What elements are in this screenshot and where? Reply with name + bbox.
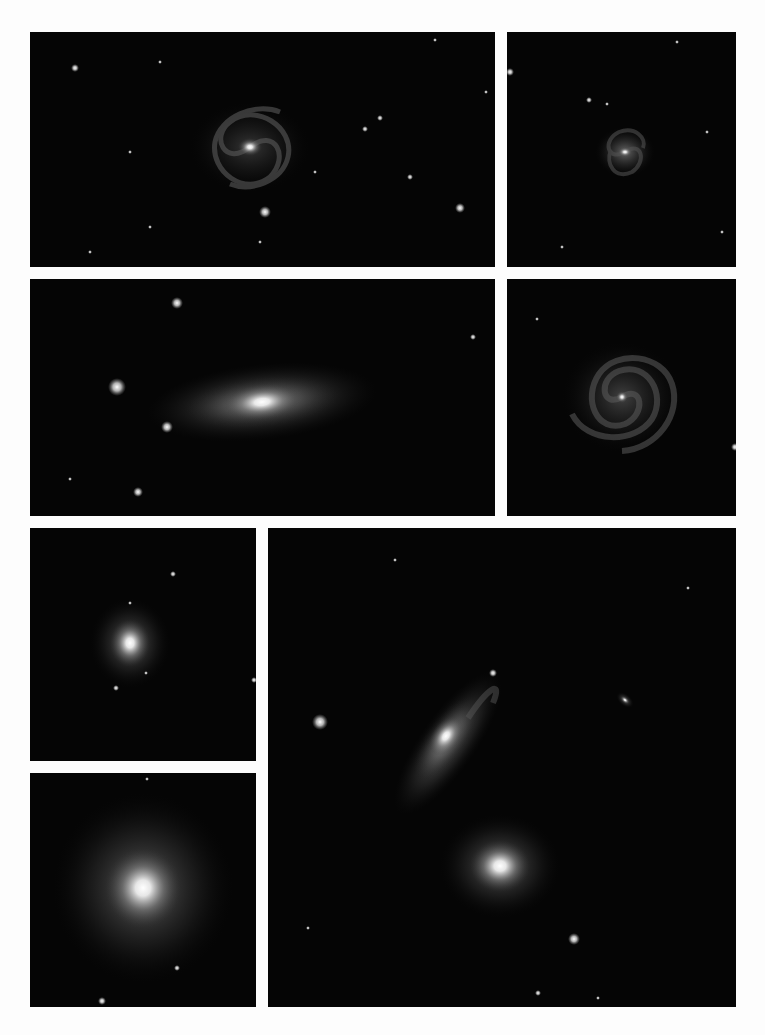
galaxy-panel-elliptical-halo: [30, 773, 256, 1007]
galaxy-panel-inclined-spiral: [30, 279, 495, 516]
galaxy-image: [268, 528, 736, 1007]
galaxy-image: [507, 279, 736, 516]
galaxy-image: [30, 528, 256, 761]
galaxy-panel-interacting-group: [268, 528, 736, 1007]
galaxy-image: [30, 32, 495, 267]
galaxy-panel-small-elliptical: [30, 528, 256, 761]
galaxy-image: [30, 773, 256, 1007]
galaxy-image: [30, 279, 495, 516]
galaxy-panel-spiral-loose: [30, 32, 495, 267]
galaxy-panel-grand-design-spiral: [507, 279, 736, 516]
galaxy-image: [507, 32, 736, 267]
galaxy-panel-barred-spiral: [507, 32, 736, 267]
